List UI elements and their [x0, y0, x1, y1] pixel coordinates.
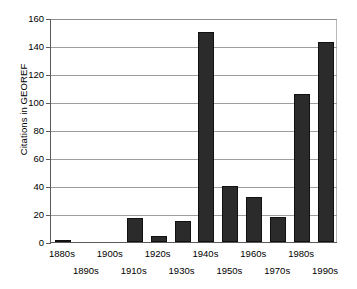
x-axis-label-1910s: 1910s	[121, 266, 147, 276]
x-axis-label-1950s: 1950s	[216, 266, 242, 276]
y-axis-label-60: 60	[0, 154, 44, 164]
y-axis-label-0: 0	[0, 238, 44, 248]
bar-slot-1990s	[314, 19, 338, 242]
y-axis-tick-0	[46, 243, 51, 244]
bar-series	[51, 19, 337, 242]
bar-1990s	[318, 42, 334, 242]
bar-1910s	[127, 218, 143, 242]
y-axis-label-140: 140	[0, 42, 44, 52]
bar-slot-1950s	[218, 19, 242, 242]
bar-1930s	[175, 221, 191, 242]
x-axis-label-1890s: 1890s	[73, 266, 99, 276]
x-axis-label-1970s: 1970s	[264, 266, 290, 276]
y-axis-label-40: 40	[0, 182, 44, 192]
x-axis-label-1880s: 1880s	[49, 249, 75, 259]
bar-slot-1980s	[290, 19, 314, 242]
y-axis-label-20: 20	[0, 210, 44, 220]
x-axis-label-1900s: 1900s	[97, 249, 123, 259]
x-axis-label-1920s: 1920s	[145, 249, 171, 259]
x-axis-label-1990s: 1990s	[312, 266, 338, 276]
bar-1970s	[270, 217, 286, 242]
x-axis-label-1940s: 1940s	[193, 249, 219, 259]
bar-slot-1880s	[51, 19, 75, 242]
x-axis-label-1930s: 1930s	[169, 266, 195, 276]
bar-1940s	[198, 32, 214, 242]
bar-1950s	[222, 186, 238, 242]
bar-1980s	[294, 94, 310, 242]
bar-slot-1920s	[147, 19, 171, 242]
y-axis-label-120: 120	[0, 70, 44, 80]
bar-slot-1890s	[75, 19, 99, 242]
bar-slot-1910s	[123, 19, 147, 242]
y-axis-label-80: 80	[0, 126, 44, 136]
bar-1880s	[55, 240, 71, 242]
bar-chart: Citations in GEOREF 02040608010012014016…	[0, 0, 357, 289]
bar-slot-1900s	[99, 19, 123, 242]
x-axis-label-1960s: 1960s	[240, 249, 266, 259]
bar-1920s	[151, 236, 167, 242]
y-axis-label-100: 100	[0, 98, 44, 108]
bar-1960s	[246, 197, 262, 242]
x-axis-label-1980s: 1980s	[288, 249, 314, 259]
plot-area	[50, 19, 337, 243]
bar-slot-1940s	[195, 19, 219, 242]
y-axis-label-160: 160	[0, 14, 44, 24]
bar-slot-1930s	[171, 19, 195, 242]
bar-slot-1960s	[242, 19, 266, 242]
y-axis-title: Citations in GEOREF	[18, 30, 29, 190]
bar-slot-1970s	[266, 19, 290, 242]
